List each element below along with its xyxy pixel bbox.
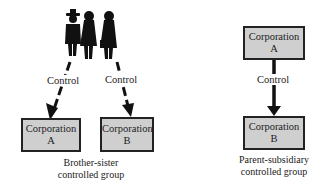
parent-corp-a-line1: Corporation xyxy=(245,31,303,43)
sub-corp-b-line1: Corporation xyxy=(245,121,303,133)
subsidiary-corporation-b-box: Corporation B xyxy=(243,116,305,150)
corporation-b-box: Corporation B xyxy=(100,117,154,152)
caption-line1: Parent-subsidiary xyxy=(234,154,314,166)
control-label-a: Control xyxy=(47,75,79,86)
control-label-b: Control xyxy=(105,74,137,85)
corp-a-line2: A xyxy=(23,135,79,147)
corp-b-line2: B xyxy=(102,135,152,147)
corp-b-line1: Corporation xyxy=(102,123,152,135)
caption-line2: controlled group xyxy=(56,169,126,181)
parent-corp-a-line2: A xyxy=(245,43,303,55)
people-silhouette-icon xyxy=(65,9,117,59)
control-label-parent: Control xyxy=(257,74,289,85)
corporation-a-box: Corporation A xyxy=(21,118,81,152)
parent-corporation-a-box: Corporation A xyxy=(243,26,305,60)
caption-line1: Brother-sister xyxy=(56,157,126,169)
corp-a-line1: Corporation xyxy=(23,123,79,135)
sub-corp-b-line2: B xyxy=(245,133,303,145)
parent-subsidiary-caption: Parent-subsidiary controlled group xyxy=(234,154,314,178)
brother-sister-caption: Brother-sister controlled group xyxy=(56,157,126,181)
caption-line2: controlled group xyxy=(234,166,314,178)
